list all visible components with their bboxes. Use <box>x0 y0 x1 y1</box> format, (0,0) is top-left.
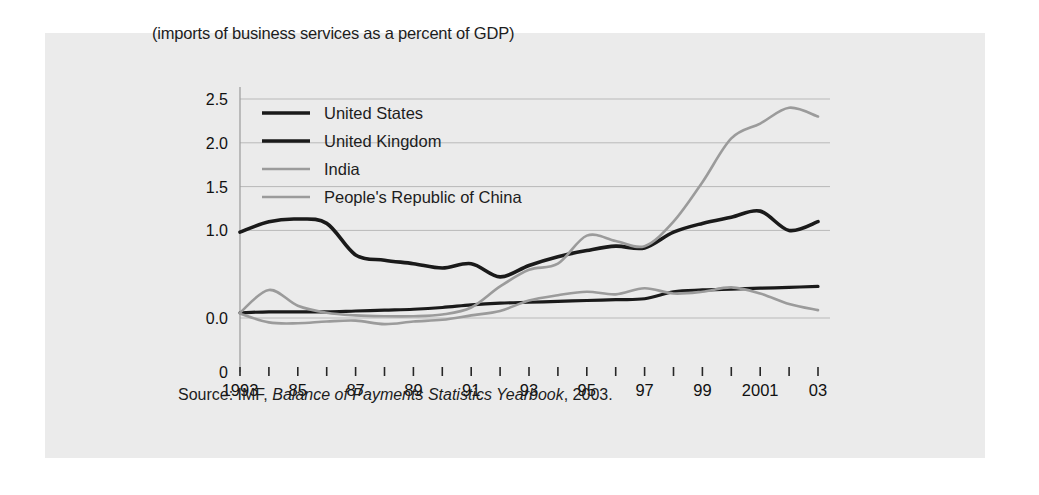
series-line <box>240 211 818 277</box>
x-tick-label: 03 <box>809 381 827 399</box>
source-note: Source: IMF, Balance of Payments Statist… <box>178 386 613 404</box>
line-chart: 0.01.01.52.02.50 19938587899193959799200… <box>0 0 1039 495</box>
source-publication: Balance of Payments Statistics Yearbook <box>272 386 563 403</box>
legend: United StatesUnited KingdomIndiaPeople's… <box>262 104 522 206</box>
y-tick-label: 1.5 <box>206 179 228 196</box>
legend-label: India <box>324 160 361 178</box>
source-prefix: Source: IMF, <box>178 386 268 403</box>
legend-label: United States <box>324 104 423 122</box>
legend-label: People's Republic of China <box>324 188 522 206</box>
y-tick-label: 2.5 <box>206 91 228 108</box>
x-tick-label: 99 <box>693 381 711 399</box>
legend-label: United Kingdom <box>324 132 441 150</box>
x-tick-label: 97 <box>635 381 653 399</box>
y-axis-origin-label: 0 <box>219 364 228 381</box>
y-tick-label: 0.0 <box>206 310 228 327</box>
y-tick-labels: 0.01.01.52.02.50 <box>206 91 228 381</box>
series-line <box>240 287 818 324</box>
source-suffix: , 2003. <box>564 386 613 403</box>
y-tick-label: 2.0 <box>206 135 228 152</box>
x-tick-label: 2001 <box>742 381 779 399</box>
x-axis <box>240 367 818 376</box>
y-tick-label: 1.0 <box>206 222 228 239</box>
